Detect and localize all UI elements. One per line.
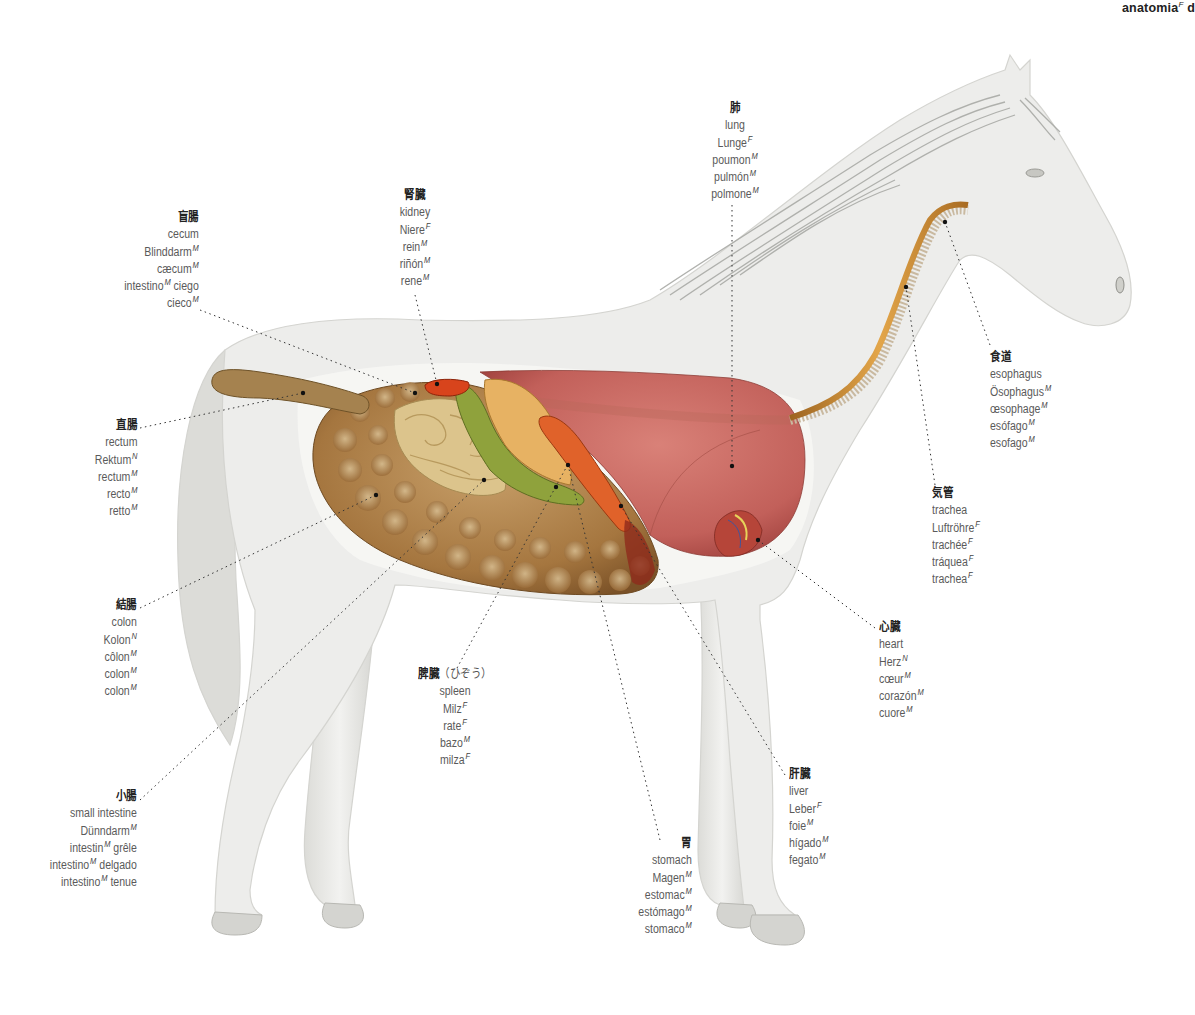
- term-en: stomach: [638, 852, 692, 869]
- label-liver: 肝臓 liver LeberF foieM hígadoM fegatoM: [789, 766, 828, 870]
- label-jp: 胃: [638, 835, 692, 852]
- label-esophagus: 食道 esophagus ÖsophagusM œsophageM esófag…: [990, 349, 1051, 453]
- term-de: MilzF: [411, 701, 499, 718]
- label-lung: 肺 lung LungeF poumonM pulmónM polmoneM: [704, 100, 766, 204]
- term-it: fegatoM: [789, 852, 828, 869]
- label-kidney: 腎臓 kidney NiereF reinM riñónM reneM: [389, 187, 442, 291]
- label-jp: 肝臓: [789, 766, 828, 783]
- term-es: colonM: [104, 666, 137, 683]
- term-de: KolonN: [104, 632, 137, 649]
- term-en: lung: [704, 117, 766, 134]
- label-rectum: 直腸 rectum RektumN rectumM rectoM rettoM: [94, 417, 137, 521]
- term-de: RektumN: [94, 452, 137, 469]
- term-de: HerzN: [879, 654, 924, 671]
- horse-anatomy-illustration: [0, 0, 1195, 1015]
- term-it: milzaF: [411, 752, 499, 769]
- term-it: ciecoM: [124, 295, 199, 312]
- term-en: heart: [879, 636, 924, 653]
- term-es: estómagoM: [638, 904, 692, 921]
- term-es: bazoM: [411, 735, 499, 752]
- term-fr: intestinM grêle: [50, 840, 137, 857]
- kidney: [425, 379, 469, 396]
- term-it: intestinoM tenue: [50, 874, 137, 891]
- eye: [1026, 169, 1044, 177]
- term-es: esófagoM: [990, 418, 1051, 435]
- term-de: BlinddarmM: [124, 244, 199, 261]
- label-jp: 脾臓: [418, 667, 439, 681]
- term-fr: cæcumM: [124, 261, 199, 278]
- term-es: intestinoM delgado: [50, 857, 137, 874]
- term-en: trachea: [932, 502, 980, 519]
- term-es: riñónM: [389, 256, 442, 273]
- label-jp: 小腸: [50, 788, 137, 805]
- term-it: tracheaF: [932, 571, 980, 588]
- term-fr: estomacM: [638, 887, 692, 904]
- term-es: intestinoM ciego: [124, 278, 199, 295]
- term-fr: œsophageM: [990, 401, 1051, 418]
- hooves: [212, 903, 805, 945]
- term-de: LuftröhreF: [932, 520, 980, 537]
- term-es: pulmónM: [704, 169, 766, 186]
- term-it: rettoM: [94, 503, 137, 520]
- label-jp: 腎臓: [389, 187, 442, 204]
- term-it: cuoreM: [879, 705, 924, 722]
- term-en: kidney: [389, 204, 442, 221]
- term-de: NiereF: [389, 222, 442, 239]
- term-fr: trachéeF: [932, 537, 980, 554]
- label-colon: 結腸 colon KolonN côlonM colonM colonM: [104, 597, 137, 701]
- term-it: colonM: [104, 683, 137, 700]
- term-en: rectum: [94, 434, 137, 451]
- term-es: hígadoM: [789, 835, 828, 852]
- term-fr: reinM: [389, 239, 442, 256]
- label-heart: 心臓 heart HerzN cœurM corazónM cuoreM: [879, 619, 924, 723]
- term-es: corazónM: [879, 688, 924, 705]
- label-jp-row: 脾臓（ひぞう）: [411, 666, 499, 683]
- term-es: tráqueaF: [932, 554, 980, 571]
- term-it: stomacoM: [638, 921, 692, 938]
- label-small-intestine: 小腸 small intestine DünndarmM intestinM g…: [50, 788, 137, 892]
- term-en: colon: [104, 614, 137, 631]
- label-jp: 心臓: [879, 619, 924, 636]
- label-cecum: 盲腸 cecum BlinddarmM cæcumM intestinoM ci…: [124, 209, 199, 313]
- label-jp: 直腸: [94, 417, 137, 434]
- label-trachea: 気管 trachea LuftröhreF trachéeF tráqueaF …: [932, 485, 980, 589]
- nostril: [1116, 277, 1124, 293]
- term-de: LungeF: [704, 135, 766, 152]
- label-jp: 盲腸: [124, 209, 199, 226]
- anatomy-page: anatomiaF d: [0, 0, 1195, 1015]
- term-en: cecum: [124, 226, 199, 243]
- term-en: spleen: [411, 683, 499, 700]
- term-de: ÖsophagusM: [990, 384, 1051, 401]
- term-fr: rateF: [411, 718, 499, 735]
- term-en: liver: [789, 783, 828, 800]
- term-it: esofagoM: [990, 435, 1051, 452]
- term-en: esophagus: [990, 366, 1051, 383]
- term-fr: cœurM: [879, 671, 924, 688]
- term-fr: côlonM: [104, 649, 137, 666]
- term-it: reneM: [389, 273, 442, 290]
- term-es: rectoM: [94, 486, 137, 503]
- label-stomach: 胃 stomach MagenM estomacM estómagoM stom…: [638, 835, 692, 939]
- term-fr: rectumM: [94, 469, 137, 486]
- term-de: LeberF: [789, 801, 828, 818]
- label-jp: 結腸: [104, 597, 137, 614]
- term-fr: foieM: [789, 818, 828, 835]
- term-de: DünndarmM: [50, 823, 137, 840]
- label-jp: 食道: [990, 349, 1051, 366]
- label-jp: 気管: [932, 485, 980, 502]
- label-spleen: 脾臓（ひぞう） spleen MilzF rateF bazoM milzaF: [411, 666, 499, 770]
- term-en: small intestine: [50, 805, 137, 822]
- term-fr: poumonM: [704, 152, 766, 169]
- term-de: MagenM: [638, 870, 692, 887]
- label-jp-kana: （ひぞう）: [439, 667, 492, 681]
- term-it: polmoneM: [704, 186, 766, 203]
- label-jp: 肺: [704, 100, 766, 117]
